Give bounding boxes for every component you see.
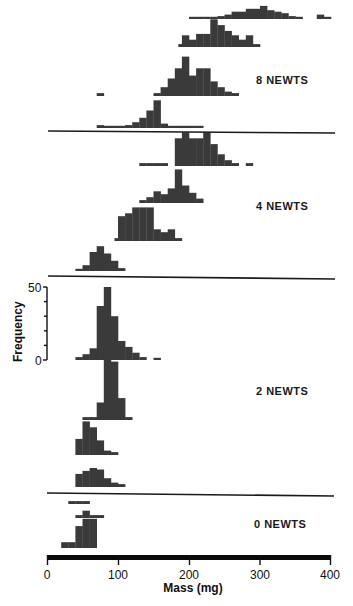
histogram-8-newts-row-3: [97, 57, 239, 96]
histogram-bar: [146, 163, 153, 166]
histogram-bar: [75, 526, 82, 548]
y-tick-50: 50: [28, 281, 42, 295]
histogram-bar: [118, 268, 125, 271]
histogram-bar: [83, 519, 90, 548]
histogram-bar: [75, 357, 82, 360]
histogram-bar: [217, 25, 224, 47]
histogram-bar: [104, 350, 111, 420]
histogram-bar: [203, 68, 210, 96]
histogram-bar: [104, 451, 111, 455]
histogram-bar: [232, 163, 239, 166]
histogram-bar: [132, 207, 139, 241]
histogram-bar: [104, 254, 111, 272]
histogram-bar: [246, 9, 253, 19]
histogram-bar: [182, 186, 189, 204]
histogram-8-newts-row-4: [97, 100, 204, 128]
histogram-bar: [125, 347, 132, 360]
histogram-bar: [139, 163, 146, 166]
histogram-bar: [175, 169, 182, 203]
histogram-bar: [189, 193, 196, 203]
x-axis-title: Mass (mg): [163, 581, 222, 595]
histogram-bar: [196, 199, 203, 203]
histogram-bar: [239, 40, 246, 47]
x-tick-300: 300: [250, 568, 270, 582]
histogram-bar: [139, 200, 146, 203]
histogram-4-newts-row-3: [115, 207, 183, 241]
x-tick-200: 200: [179, 568, 199, 582]
histogram-bar: [111, 452, 118, 455]
histogram-bar: [196, 34, 203, 47]
histogram-bar: [118, 126, 125, 128]
histogram-bar: [317, 15, 324, 19]
histogram-bar: [196, 126, 203, 128]
histogram-0-newts-row-1: [68, 501, 90, 504]
histogram-0-newts-row-3: [61, 519, 97, 548]
histogram-bar: [154, 358, 161, 360]
histogram-bar: [217, 16, 224, 19]
histogram-bar: [90, 427, 97, 455]
histogram-2-newts-row-4: [75, 468, 125, 487]
histogram-bar: [210, 19, 217, 47]
histogram-bar: [111, 261, 118, 271]
histogram-bar: [154, 163, 161, 166]
histogram-bar: [75, 269, 82, 271]
histogram-bar: [196, 17, 203, 19]
histogram-bar: [83, 421, 90, 455]
histogram-bar: [132, 353, 139, 360]
histogram-bar: [154, 100, 161, 128]
histogram-bar: [232, 35, 239, 47]
histogram-bar: [168, 188, 175, 203]
histogram-bar: [111, 483, 118, 487]
histogram-bar: [246, 35, 253, 47]
histogram-8-newts-row-1: [189, 6, 331, 19]
histogram-bar: [189, 76, 196, 96]
histogram-bar: [139, 207, 146, 241]
histogram-bar: [125, 417, 132, 420]
histogram-bar: [168, 126, 175, 128]
histogram-bar: [125, 125, 132, 128]
y-axis-title: Frequency: [11, 301, 25, 362]
histogram-bar: [225, 160, 232, 166]
x-tick-400: 400: [320, 568, 340, 582]
histogram-bar: [189, 17, 196, 19]
histogram-bar: [83, 417, 90, 420]
histogram-bar: [239, 12, 246, 19]
histogram-bar: [175, 238, 182, 241]
histogram-bar: [168, 229, 175, 241]
histogram-bar: [182, 132, 189, 166]
histogram-bar: [97, 246, 104, 271]
histogram-bar: [104, 287, 111, 360]
histogram-bar: [154, 229, 161, 241]
histogram-bar: [210, 17, 217, 19]
histogram-2-newts-row-2: [83, 350, 133, 420]
group-label-2-newts: 2 NEWTS: [256, 385, 308, 397]
histogram-bar: [132, 122, 139, 128]
histogram-bar: [203, 17, 210, 19]
histogram-bar: [90, 348, 97, 360]
histogram-bar: [90, 252, 97, 271]
histogram-bar: [68, 501, 75, 504]
histogram-bar: [75, 515, 82, 518]
histogram-bar: [75, 474, 82, 487]
histogram-bar: [83, 265, 90, 271]
histogram-0-newts-row-2: [75, 511, 104, 518]
histogram-bar: [154, 191, 161, 203]
histogram-bar: [97, 403, 104, 421]
y-axis: 50 0 Frequency: [11, 281, 47, 368]
histogram-bar: [161, 87, 168, 96]
histogram-bar: [97, 515, 104, 518]
x-axis: 0 100 200 300 400 Mass (mg): [44, 555, 341, 595]
separator-8-4: [48, 131, 335, 133]
x-tick-0: 0: [44, 568, 51, 582]
histogram-bar: [118, 484, 125, 487]
histogram-2-newts-row-1: [75, 287, 160, 360]
histogram-bar: [232, 93, 239, 96]
histogram-bar: [225, 31, 232, 47]
histogram-bar: [90, 468, 97, 487]
histogram-chart: 8 NEWTS 4 NEWTS 2 NEWTS 0 NEWTS 50 0 Fre…: [0, 0, 353, 606]
histogram-bar: [296, 17, 303, 19]
histogram-bar: [189, 138, 196, 166]
histogram-bar: [260, 6, 267, 19]
histogram-bar: [118, 341, 125, 360]
histogram-bar: [83, 471, 90, 487]
